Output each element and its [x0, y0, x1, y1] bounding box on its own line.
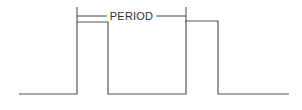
square-wave-signal [19, 21, 289, 94]
pulse-period-diagram: PERIOD [0, 0, 302, 110]
period-label: PERIOD [110, 10, 153, 22]
